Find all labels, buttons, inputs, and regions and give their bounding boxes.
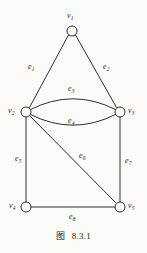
vertex-label-v3: v3 [128,107,134,115]
vertex-v3 [115,107,125,117]
vertex-label-v2: v2 [8,107,14,115]
vertex-v2 [21,107,31,117]
edge-label-sub-e6: 6 [83,155,86,161]
vertex-label-v1: v1 [67,12,73,20]
caption-space [65,231,72,241]
edge-e2 [76,35,117,108]
edge-label-e3: e3 [68,85,74,93]
edge-e6 [30,116,116,203]
edge-label-e5: e5 [15,155,21,163]
edge-e3 [31,99,116,110]
edge-label-e7: e7 [125,157,131,165]
edge-label-sub-e2: 2 [107,66,110,72]
vertex-label-sub-v1: 1 [71,15,74,21]
figure-container: e1e2e3e4e5e6e7e8v1v2v3v4v5 图 8.3.1 [0,0,147,253]
caption-number: 8.3.1 [72,231,92,241]
vertex-label-sub-v4: 4 [13,205,16,211]
vertex-v4 [21,202,31,212]
edge-label-e8: e8 [69,213,75,221]
vertex-label-v5: v5 [128,202,134,210]
edge-label-sub-e1: 1 [32,66,35,72]
edge-label-e4: e4 [68,117,74,125]
vertex-v1 [67,26,77,36]
edge-label-sub-e7: 7 [129,160,132,166]
vertex-label-sub-v2: 2 [12,110,15,116]
figure-caption: 图 8.3.1 [0,232,147,241]
edge-label-sub-e8: 8 [73,216,76,222]
edge-label-sub-e3: 3 [72,88,75,94]
edge-label-e1: e1 [28,63,34,71]
edge-label-e2: e2 [103,63,109,71]
edge-label-sub-e5: 5 [19,158,22,164]
vertex-label-v4: v4 [9,202,15,210]
edge-label-e6: e6 [79,152,85,160]
edge-e1 [30,35,69,108]
edge-label-sub-e4: 4 [72,120,75,126]
vertex-v5 [115,202,125,212]
vertex-label-sub-v3: 3 [132,110,135,116]
vertex-label-sub-v5: 5 [132,205,135,211]
caption-label: 图 [56,231,65,241]
